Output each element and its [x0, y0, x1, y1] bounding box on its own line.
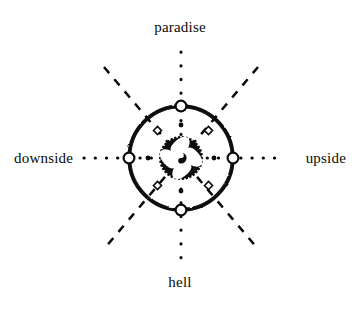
axis-label-downside: downside [14, 151, 73, 166]
diagram-canvas: paradise hell downside upside [0, 0, 360, 313]
ring-node-paradise[interactable] [176, 101, 187, 112]
ring-node-hell[interactable] [176, 205, 187, 216]
ring-node-downside[interactable] [124, 153, 135, 164]
ring-node-upside[interactable] [228, 153, 239, 164]
axis-dot [146, 156, 151, 161]
inner-hub [159, 136, 203, 180]
axis-label-paradise: paradise [0, 20, 360, 35]
axis-dot [179, 123, 184, 128]
diagonal-node[interactable] [205, 182, 213, 190]
axis-label-hell: hell [0, 275, 360, 290]
axis-label-upside: upside [306, 151, 346, 166]
axis-dot [212, 156, 217, 161]
axis-dot [179, 189, 184, 194]
yin-yang-swirl-icon [175, 152, 186, 163]
